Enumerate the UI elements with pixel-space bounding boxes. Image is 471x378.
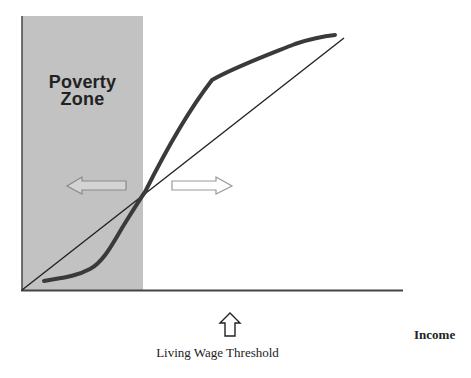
living-wage-diagram: Poverty Zone Living Wage Threshold Incom… xyxy=(0,0,471,378)
poverty-zone-region xyxy=(22,16,143,290)
right-arrow-icon xyxy=(172,177,232,194)
x-axis-label: Income xyxy=(414,327,455,343)
up-arrow-icon xyxy=(220,313,240,336)
zone-label-line2: Zone xyxy=(22,91,143,108)
living-wage-threshold-label: Living Wage Threshold xyxy=(130,345,305,361)
diagram-canvas xyxy=(0,0,471,378)
poverty-zone-label: Poverty Zone xyxy=(22,74,143,108)
